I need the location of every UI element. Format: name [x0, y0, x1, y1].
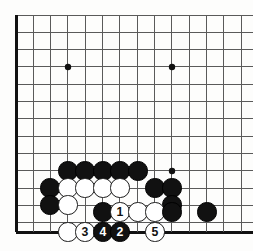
stone-label: 5	[152, 225, 159, 237]
move-stone-3[interactable]: 3	[75, 222, 94, 241]
stone-label: 4	[100, 225, 107, 237]
white-stone[interactable]	[75, 178, 94, 197]
black-stone[interactable]	[40, 195, 59, 214]
go-diagram-figure: 13425	[0, 0, 253, 251]
move-stone-2[interactable]: 2	[110, 222, 129, 241]
move-stone-5[interactable]: 5	[145, 222, 164, 241]
black-stone[interactable]	[197, 202, 216, 221]
stone-label: 3	[82, 225, 89, 237]
star-point-0	[65, 64, 71, 70]
stone-label: 1	[117, 205, 124, 217]
black-stone[interactable]	[162, 202, 181, 221]
star-point-2	[169, 168, 175, 174]
stone-label: 2	[117, 225, 124, 237]
star-point-1	[169, 64, 175, 70]
white-stone[interactable]	[58, 195, 77, 214]
white-stone[interactable]	[110, 178, 129, 197]
move-stone-1[interactable]: 1	[110, 202, 129, 221]
black-stone[interactable]	[128, 161, 147, 180]
